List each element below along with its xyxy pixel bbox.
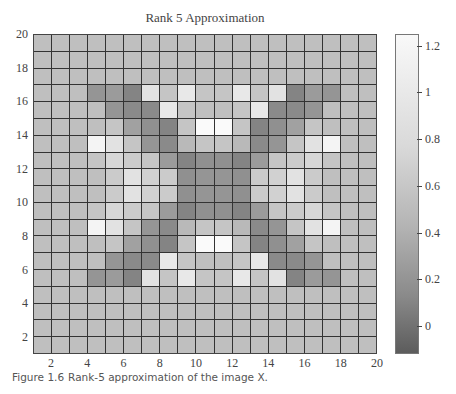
heatmap-cell <box>233 270 250 286</box>
heatmap-cell <box>269 253 286 269</box>
heatmap-cell <box>287 153 304 169</box>
heatmap-cell <box>88 186 105 202</box>
heatmap-cell <box>142 337 159 353</box>
heatmap-cell <box>287 85 304 101</box>
heatmap-cell <box>106 337 123 353</box>
heatmap-cell <box>124 35 141 51</box>
heatmap-cell <box>160 203 177 219</box>
heatmap-cell <box>269 119 286 135</box>
heatmap-cell <box>251 102 268 118</box>
heatmap-cell <box>323 136 340 152</box>
y-tick-label: 6 <box>0 262 28 277</box>
y-tick-label: 18 <box>0 60 28 75</box>
y-tick-label: 16 <box>0 94 28 109</box>
heatmap-cell <box>341 270 358 286</box>
heatmap-cell <box>196 220 213 236</box>
heatmap-cell <box>233 153 250 169</box>
x-tick-label: 14 <box>262 356 274 371</box>
heatmap-cell <box>52 69 69 85</box>
heatmap-cell <box>323 52 340 68</box>
heatmap-cell <box>251 304 268 320</box>
heatmap-cell <box>142 320 159 336</box>
heatmap-cell <box>52 35 69 51</box>
heatmap-cell <box>269 220 286 236</box>
heatmap-cell <box>70 153 87 169</box>
heatmap-cell <box>233 337 250 353</box>
heatmap-cell <box>196 203 213 219</box>
heatmap-cell <box>124 169 141 185</box>
heatmap-cell <box>196 35 213 51</box>
heatmap-cell <box>215 69 232 85</box>
heatmap-cell <box>233 169 250 185</box>
heatmap-cell <box>359 153 376 169</box>
heatmap-cell <box>233 220 250 236</box>
heatmap-cell <box>88 287 105 303</box>
heatmap-cell <box>323 236 340 252</box>
x-tick-label: 4 <box>84 356 90 371</box>
heatmap-cell <box>160 304 177 320</box>
heatmap-cell <box>359 119 376 135</box>
heatmap-cell <box>359 270 376 286</box>
heatmap-cell <box>178 119 195 135</box>
heatmap-cell <box>106 320 123 336</box>
x-tick-label: 12 <box>226 356 238 371</box>
heatmap-cell <box>52 102 69 118</box>
heatmap-cell <box>323 337 340 353</box>
colorbar-tick-mark <box>417 186 422 187</box>
heatmap-cell <box>196 287 213 303</box>
heatmap-cell <box>359 236 376 252</box>
heatmap-cell <box>233 236 250 252</box>
heatmap-cell <box>215 287 232 303</box>
heatmap-cell <box>269 320 286 336</box>
heatmap-cell <box>341 136 358 152</box>
heatmap-cell <box>52 220 69 236</box>
figure-label: Figure 1.6 <box>12 371 64 383</box>
heatmap-cell <box>359 287 376 303</box>
heatmap-cell <box>323 186 340 202</box>
heatmap-cell <box>88 153 105 169</box>
heatmap-cell <box>269 35 286 51</box>
heatmap-cell <box>196 337 213 353</box>
heatmap-cell <box>70 220 87 236</box>
heatmap-cell <box>106 136 123 152</box>
heatmap-cell <box>269 102 286 118</box>
heatmap-cell <box>34 220 51 236</box>
heatmap-cell <box>70 69 87 85</box>
heatmap-cell <box>196 320 213 336</box>
heatmap-cell <box>106 153 123 169</box>
heatmap-cell <box>215 153 232 169</box>
heatmap-cell <box>160 52 177 68</box>
colorbar <box>395 34 419 354</box>
heatmap-cell <box>196 270 213 286</box>
heatmap-cell <box>359 220 376 236</box>
heatmap-cell <box>70 203 87 219</box>
heatmap-cell <box>251 337 268 353</box>
heatmap-cell <box>323 270 340 286</box>
heatmap-cell <box>160 169 177 185</box>
heatmap-cell <box>124 85 141 101</box>
heatmap-cell <box>160 320 177 336</box>
heatmap-cell <box>269 52 286 68</box>
colorbar-tick-mark <box>417 326 422 327</box>
heatmap-cell <box>160 337 177 353</box>
y-tick-label: 20 <box>0 27 28 42</box>
heatmap-cell <box>341 203 358 219</box>
heatmap-cell <box>106 203 123 219</box>
heatmap-cell <box>124 220 141 236</box>
heatmap-cell <box>251 203 268 219</box>
colorbar-tick-label: 1 <box>425 85 431 100</box>
heatmap-cell <box>215 136 232 152</box>
heatmap-cell <box>88 69 105 85</box>
heatmap-cell <box>178 337 195 353</box>
heatmap-cell <box>88 119 105 135</box>
heatmap-cell <box>215 85 232 101</box>
heatmap-cell <box>251 136 268 152</box>
heatmap-cell <box>359 136 376 152</box>
heatmap-cell <box>88 169 105 185</box>
heatmap-cell <box>52 270 69 286</box>
heatmap-cell <box>70 35 87 51</box>
heatmap-cell <box>196 69 213 85</box>
heatmap-cell <box>251 69 268 85</box>
heatmap-cell <box>305 69 322 85</box>
heatmap-cell <box>34 253 51 269</box>
